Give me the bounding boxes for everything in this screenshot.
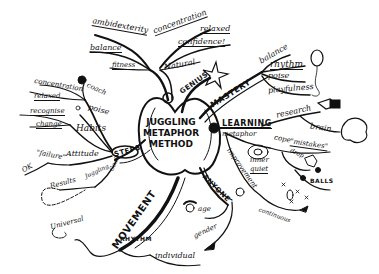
node-relaxed-top: relaxed: [200, 25, 230, 34]
node-balls: BALLS: [310, 178, 334, 184]
node-poise-mastery: poise: [268, 72, 289, 80]
center-node: JUGGLING METAPHOR METHOD: [138, 117, 204, 150]
node-attitude: Attitude: [66, 150, 99, 158]
node-rhythm: rhythm: [270, 60, 303, 70]
node-metaphor: metaphor: [222, 131, 256, 138]
node-learning: LEARNING: [222, 120, 272, 129]
node-age: age: [198, 206, 211, 213]
node-relaxed-steps: relaxed: [34, 93, 60, 101]
node-individual: individual: [155, 252, 195, 260]
node-change: change: [36, 121, 62, 129]
center-line-2: METAPHOR: [138, 128, 204, 139]
node-habits: Habits: [76, 124, 106, 133]
node-fitness: fitness: [112, 62, 135, 70]
node-quiet: quiet: [250, 166, 268, 174]
node-inner: inner: [250, 157, 269, 164]
node-confidence: confidence!: [178, 38, 225, 47]
node-balance: balance: [90, 44, 122, 53]
center-line-1: JUGGLING: [138, 117, 204, 128]
center-line-3: METHOD: [138, 139, 204, 150]
node-rhythm-movement: RHYTHM: [120, 236, 152, 242]
node-recognise: recognise: [30, 108, 65, 116]
